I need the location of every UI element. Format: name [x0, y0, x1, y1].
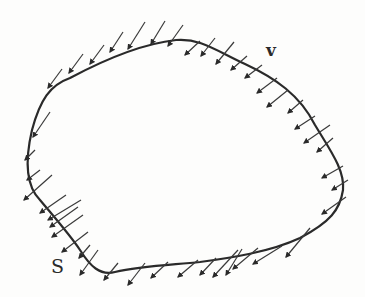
velocity-arrow	[128, 22, 145, 49]
velocity-arrow	[128, 263, 145, 285]
velocity-arrow	[185, 41, 200, 55]
velocity-arrow	[25, 150, 35, 160]
velocity-arrow	[216, 42, 234, 64]
surface-curve	[27, 40, 343, 273]
velocity-arrow	[151, 262, 168, 278]
velocity-arrow	[288, 100, 303, 113]
velocity-arrow	[295, 116, 315, 129]
velocity-arrow	[267, 90, 288, 107]
velocity-arrow	[257, 78, 277, 93]
velocity-arrows	[24, 21, 348, 285]
velocity-arrow	[226, 249, 242, 275]
velocity-arrow	[110, 32, 123, 52]
velocity-arrow	[168, 25, 183, 46]
velocity-arrow	[69, 54, 83, 73]
velocity-arrow	[151, 21, 165, 44]
velocity-arrow	[213, 250, 238, 277]
surface-vector-field-diagram	[0, 0, 365, 297]
surface-label: S	[51, 257, 64, 276]
velocity-arrow	[62, 232, 88, 252]
vector-field-label: v	[266, 42, 276, 59]
velocity-arrow	[332, 180, 348, 190]
